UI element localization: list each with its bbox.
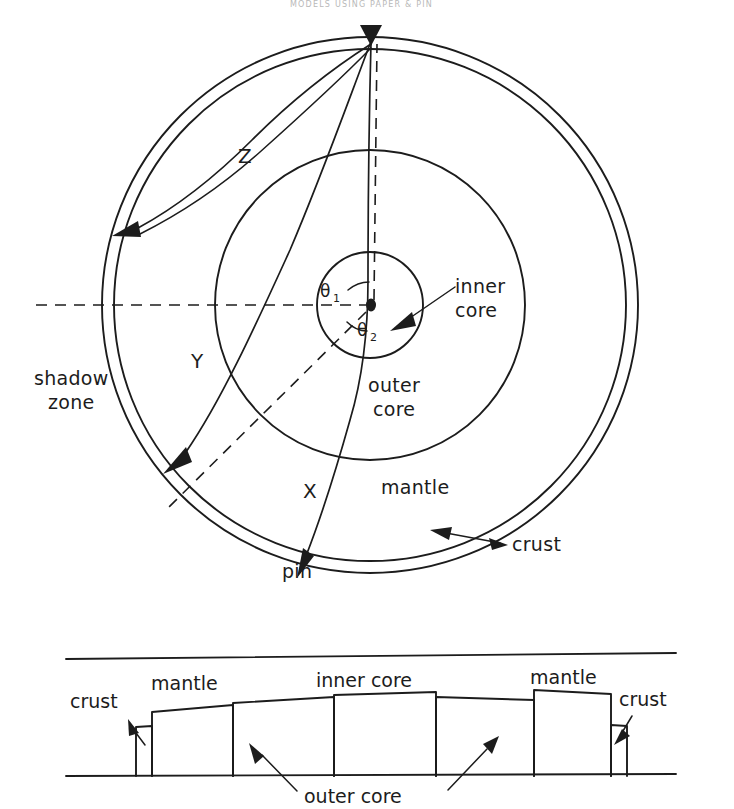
svg-text:1: 1 bbox=[333, 292, 340, 305]
inner-core-leader-arrowhead bbox=[390, 312, 416, 331]
svg-text:θ: θ bbox=[357, 320, 367, 340]
block-outer-core-left bbox=[233, 697, 334, 776]
block-mantle-right bbox=[534, 690, 611, 776]
strip-mantle-left-label: mantle bbox=[151, 672, 218, 694]
theta2-dashed-ray bbox=[168, 312, 366, 508]
block-mantle-left bbox=[152, 705, 233, 776]
inner-core-callout: inner core bbox=[390, 275, 505, 331]
strip-mantle-right-label: mantle bbox=[530, 666, 597, 688]
header-note: MODELS USING PAPER & PIN bbox=[290, 0, 433, 9]
crust-leader-arrowhead-left bbox=[430, 527, 452, 540]
outer-core-label-line1: outer bbox=[368, 374, 420, 396]
ray-y-label: Y bbox=[190, 349, 204, 373]
shadow-zone-label: shadow zone bbox=[34, 367, 109, 413]
inner-core-label-line2: core bbox=[455, 299, 497, 321]
inner-core-label-line1: inner bbox=[455, 275, 505, 297]
seismic-wave-diagram: MODELS USING PAPER & PIN bbox=[0, 0, 734, 809]
svg-text:2: 2 bbox=[370, 331, 377, 344]
upper-diagram: θ 1 θ 2 Z Y X inner core outer core bbox=[34, 25, 638, 582]
outer-core-label-line2: core bbox=[373, 398, 415, 420]
strip-crust-right-callout bbox=[614, 716, 632, 745]
pin-label: pin bbox=[282, 560, 312, 582]
ray-y-path bbox=[186, 44, 370, 452]
shadow-zone-line2: zone bbox=[48, 391, 95, 413]
strip-outer-core-arrowhead-left bbox=[249, 743, 264, 764]
strip-outer-core-leader-left bbox=[262, 755, 297, 791]
ray-x-label: X bbox=[303, 479, 317, 503]
ray-z-label: Z bbox=[238, 144, 252, 168]
crust-callout: crust bbox=[430, 527, 561, 555]
strip-baseline bbox=[66, 774, 676, 776]
block-inner-core bbox=[334, 692, 436, 776]
block-crust-left bbox=[136, 726, 152, 776]
strip-top-line bbox=[66, 653, 676, 659]
lower-diagram: crust mantle inner core mantle crust out… bbox=[66, 653, 676, 807]
strip-crust-right-label: crust bbox=[619, 688, 667, 710]
shadow-zone-line1: shadow bbox=[34, 367, 109, 389]
strip-outer-core-callout: outer core bbox=[249, 736, 499, 807]
mantle-label: mantle bbox=[381, 476, 449, 498]
vertical-dashed-radius bbox=[374, 44, 377, 300]
theta1-arc bbox=[348, 282, 369, 290]
strip-crust-left-label: crust bbox=[70, 690, 118, 712]
crust-label: crust bbox=[512, 533, 561, 555]
svg-text:θ: θ bbox=[320, 281, 330, 301]
strip-outer-core-leader-right bbox=[448, 749, 487, 790]
block-outer-core-right bbox=[436, 697, 534, 776]
strip-inner-core-label: inner core bbox=[316, 669, 412, 691]
strip-outer-core-label: outer core bbox=[304, 785, 402, 807]
theta1-label: θ 1 bbox=[320, 281, 340, 305]
figure-root: MODELS USING PAPER & PIN bbox=[0, 0, 734, 809]
outer-core-label: outer core bbox=[368, 374, 420, 420]
theta2-label: θ 2 bbox=[357, 320, 377, 344]
